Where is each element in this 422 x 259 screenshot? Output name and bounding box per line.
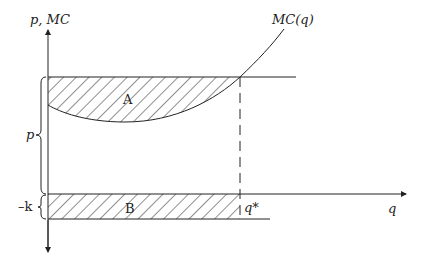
price-brace bbox=[36, 77, 46, 194]
diagram-canvas: p, MC MC(q) A B p –k q* q bbox=[0, 0, 422, 259]
x-axis-label: q bbox=[388, 201, 396, 216]
region-b-label: B bbox=[125, 201, 135, 216]
region-b bbox=[48, 194, 240, 219]
k-brace-label: –k bbox=[18, 199, 33, 214]
y-axis-label: p, MC bbox=[30, 12, 70, 27]
q-star-label: q* bbox=[244, 200, 259, 215]
price-brace-label: p bbox=[26, 127, 35, 142]
k-brace bbox=[38, 195, 46, 219]
curve-label: MC(q) bbox=[271, 12, 314, 27]
region-a-label: A bbox=[122, 92, 133, 107]
